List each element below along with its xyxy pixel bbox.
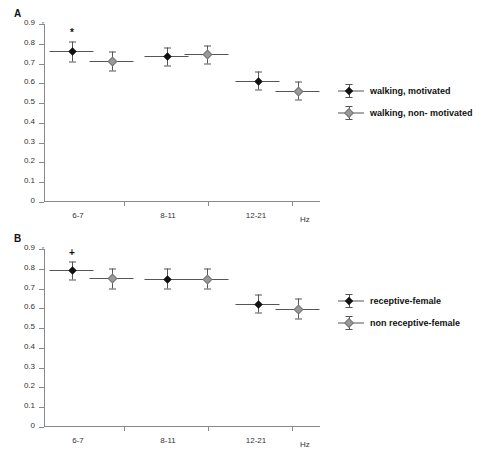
panel-a-letter: A: [14, 8, 21, 19]
x-axis-tick-label: 12-21: [246, 436, 266, 445]
legend-item: walking, non- motivated: [338, 102, 473, 124]
y-axis-tick-label: 0.8: [24, 38, 35, 47]
y-axis-tick: 0.3: [39, 368, 44, 369]
y-axis-tick-label: 0.9: [24, 243, 35, 252]
y-axis-tick: 0.2: [39, 162, 44, 163]
error-bar-cap: [295, 100, 302, 101]
error-bar-cap: [69, 61, 76, 62]
error-bar-cap: [295, 82, 302, 83]
open-diamond-marker-icon: [107, 57, 117, 67]
panel-a-legend: walking, motivated walking, non- motivat…: [338, 80, 473, 124]
y-axis-tick-label: 0.8: [24, 263, 35, 272]
legend-label: walking, motivated: [370, 86, 451, 96]
filled-diamond-marker-icon: [254, 300, 262, 308]
error-bar-cap: [109, 288, 116, 289]
open-diamond-marker-icon: [338, 105, 364, 121]
y-axis-tick: 0.2: [39, 387, 44, 388]
panel-a-y-axis: [44, 24, 45, 202]
error-bar-cap: [109, 268, 116, 269]
panel-b-x-axis: [44, 426, 320, 427]
panel-b-y-axis: [44, 249, 45, 427]
open-diamond-marker-icon: [202, 274, 212, 284]
x-axis-tick-label: 6-7: [72, 436, 84, 445]
error-bar-cap: [164, 288, 171, 289]
x-axis-tick-label: 8-11: [160, 211, 175, 220]
panel-b-letter: B: [14, 233, 21, 244]
error-bar-cap: [295, 319, 302, 320]
error-bar-cap: [204, 288, 211, 289]
x-axis-tick: [292, 202, 293, 206]
y-axis-tick: 0.9: [39, 249, 44, 250]
data-point: [298, 91, 299, 92]
error-bar-cap: [69, 41, 76, 42]
y-axis-tick-label: 0.4: [24, 342, 35, 351]
x-axis-tick: [124, 427, 125, 431]
x-axis-tick-label: 8-11: [160, 436, 175, 445]
error-bar-cap: [255, 72, 262, 73]
y-axis-tick: 0.7: [39, 64, 44, 65]
significance-marker: +: [69, 248, 75, 258]
y-axis-tick-label: 0.1: [24, 176, 35, 185]
y-axis-tick-label: 0.5: [24, 322, 35, 331]
panel-a-plot-area: 0.90.80.70.60.50.40.30.20.106-78-1112-21…: [44, 24, 320, 202]
y-axis-tick-label: 0.7: [24, 283, 35, 292]
panel-b-x-axis-unit: Hz: [300, 440, 310, 449]
significance-marker: *: [70, 28, 74, 38]
error-bar-cap: [164, 47, 171, 48]
data-point: [167, 279, 168, 280]
y-axis-tick: 0.5: [39, 328, 44, 329]
data-point: [258, 304, 259, 305]
legend-item: receptive-female: [338, 290, 460, 312]
legend-label: non receptive-female: [370, 318, 460, 328]
open-diamond-marker-icon: [338, 315, 364, 331]
y-axis-tick: 0.4: [39, 348, 44, 349]
data-point: [207, 279, 208, 280]
y-axis-tick: 0: [39, 427, 44, 428]
y-axis-tick-label: 0.9: [24, 18, 35, 27]
y-axis-tick: 0.6: [39, 83, 44, 84]
data-point: [72, 270, 73, 271]
y-axis-tick: 0.1: [39, 407, 44, 408]
panel-a-x-axis-unit: Hz: [300, 215, 310, 224]
error-bar-cap: [69, 261, 76, 262]
open-diamond-marker-icon: [107, 274, 117, 284]
y-axis-tick-label: 0.6: [24, 302, 35, 311]
y-axis-tick: 0.9: [39, 24, 44, 25]
data-point: [112, 61, 113, 62]
y-axis-tick-label: 0.5: [24, 97, 35, 106]
y-axis-tick: 0.6: [39, 308, 44, 309]
data-point: [167, 56, 168, 57]
error-bar-cap: [204, 269, 211, 270]
x-axis-tick: [292, 427, 293, 431]
open-diamond-marker-icon: [202, 50, 212, 60]
data-point: [258, 81, 259, 82]
error-bar-cap: [255, 313, 262, 314]
figure-container: A r 0.90.80.70.60.50.40.30.20.106-78-111…: [0, 0, 503, 470]
error-bar-cap: [295, 299, 302, 300]
open-diamond-marker-icon: [293, 304, 303, 314]
filled-diamond-marker-icon: [338, 83, 364, 99]
panel-a: A r 0.90.80.70.60.50.40.30.20.106-78-111…: [0, 0, 503, 233]
x-axis-tick: [124, 202, 125, 206]
y-axis-tick-label: 0.2: [24, 156, 35, 165]
y-axis-tick-label: 0.1: [24, 401, 35, 410]
filled-diamond-marker-icon: [68, 47, 76, 55]
legend-label: walking, non- motivated: [370, 108, 473, 118]
y-axis-tick-label: 0.3: [24, 137, 35, 146]
y-axis-tick: 0.5: [39, 103, 44, 104]
legend-item: walking, motivated: [338, 80, 473, 102]
y-axis-tick: 0.8: [39, 44, 44, 45]
y-axis-tick-label: 0.6: [24, 77, 35, 86]
error-bar-cap: [164, 65, 171, 66]
filled-diamond-marker-icon: [163, 52, 171, 60]
legend-item: non receptive-female: [338, 312, 460, 334]
y-axis-tick-label: 0: [31, 196, 35, 205]
data-point: [72, 51, 73, 52]
y-axis-tick: 0.3: [39, 143, 44, 144]
legend-label: receptive-female: [370, 296, 441, 306]
y-axis-tick: 0.1: [39, 182, 44, 183]
data-point: [298, 309, 299, 310]
error-bar-cap: [109, 71, 116, 72]
x-axis-tick: [208, 427, 209, 431]
x-axis-tick: [208, 202, 209, 206]
